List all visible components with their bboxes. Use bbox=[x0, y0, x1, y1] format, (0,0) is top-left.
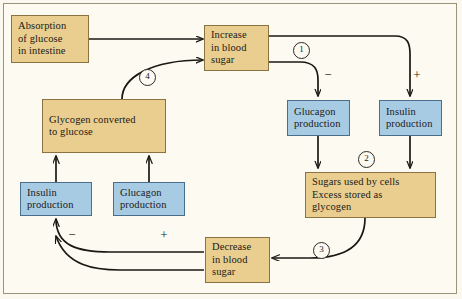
step-marker-2: 2 bbox=[358, 151, 375, 168]
sign-minus-glucagon-top: − bbox=[322, 68, 334, 81]
node-glycogen-line-2: to glucose bbox=[49, 126, 159, 139]
node-insulin-top-line-2: production bbox=[386, 118, 435, 131]
node-decrease-line-1: Decrease bbox=[212, 241, 263, 254]
node-absorption-line-3: in intestine bbox=[18, 45, 82, 58]
node-insulin-top-line-1: Insulin bbox=[386, 106, 435, 119]
node-glycogen-line-1: Glycogen converted bbox=[49, 114, 159, 127]
node-insulin-production-bottom[interactable]: Insulin production bbox=[20, 182, 92, 216]
blood-sugar-regulation-diagram: Absorption of glucose in intestine Incre… bbox=[0, 0, 462, 299]
node-absorption-line-1: Absorption bbox=[18, 20, 82, 33]
node-glycogen-converted-to-glucose[interactable]: Glycogen converted to glucose bbox=[42, 99, 166, 153]
node-sugars-line-3: glycogen bbox=[312, 201, 429, 214]
node-increase-line-2: in blood bbox=[211, 42, 262, 55]
node-glucagon-top-line-2: production bbox=[294, 118, 343, 131]
node-sugars-used-by-cells[interactable]: Sugars used by cells Excess stored as gl… bbox=[305, 172, 436, 218]
node-increase-blood-sugar[interactable]: Increase in blood sugar bbox=[204, 25, 269, 71]
node-glucagon-production-bottom[interactable]: Glucagon production bbox=[113, 182, 185, 216]
node-decrease-line-3: sugar bbox=[212, 266, 263, 279]
node-absorption[interactable]: Absorption of glucose in intestine bbox=[11, 15, 89, 63]
sign-minus-insulin-bottom: − bbox=[66, 228, 78, 241]
step-marker-3: 3 bbox=[313, 242, 330, 259]
node-glucagon-bottom-line-1: Glucagon bbox=[120, 187, 178, 200]
node-insulin-bottom-line-1: Insulin bbox=[27, 187, 85, 200]
node-glucagon-top-line-1: Glucagon bbox=[294, 106, 343, 119]
node-glucagon-production-top[interactable]: Glucagon production bbox=[287, 100, 350, 136]
node-glucagon-bottom-line-2: production bbox=[120, 199, 178, 212]
node-absorption-line-2: of glucose bbox=[18, 33, 82, 46]
sign-plus-glucagon-bottom: + bbox=[158, 228, 170, 241]
node-increase-line-1: Increase bbox=[211, 29, 262, 42]
node-sugars-line-1: Sugars used by cells bbox=[312, 176, 429, 189]
node-insulin-bottom-line-2: production bbox=[27, 199, 85, 212]
step-marker-4: 4 bbox=[139, 69, 156, 86]
step-marker-1: 1 bbox=[293, 42, 310, 59]
node-sugars-line-2: Excess stored as bbox=[312, 189, 429, 202]
node-insulin-production-top[interactable]: Insulin production bbox=[379, 100, 442, 136]
node-decrease-blood-sugar[interactable]: Decrease in blood sugar bbox=[205, 237, 270, 283]
node-increase-line-3: sugar bbox=[211, 54, 262, 67]
node-decrease-line-2: in blood bbox=[212, 254, 263, 267]
sign-plus-insulin-top: + bbox=[411, 68, 423, 81]
